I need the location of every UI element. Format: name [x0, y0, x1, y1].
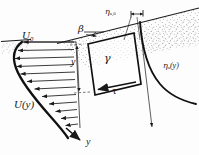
- figure-container: U0 U(y) β ηa,0 ηa(y) γ τ y y: [0, 0, 199, 155]
- label-depth-dimension: y: [71, 57, 75, 67]
- diagram-canvas: [0, 0, 199, 155]
- label-depth-axis: y: [86, 137, 90, 147]
- label-velocity-profile: U(y): [14, 99, 34, 110]
- label-free-stream-velocity: U0: [22, 30, 33, 42]
- velocity-profile-frame: [22, 42, 80, 128]
- label-surface-elevation-origin: ηa,0: [105, 8, 116, 17]
- label-surface-elevation-profile: ηa(y): [163, 62, 179, 71]
- label-slope-angle: β: [78, 24, 84, 34]
- velocity-profile-curve: [14, 42, 68, 138]
- label-specific-weight: γ: [104, 53, 111, 64]
- label-shear-stress: τ: [112, 87, 117, 96]
